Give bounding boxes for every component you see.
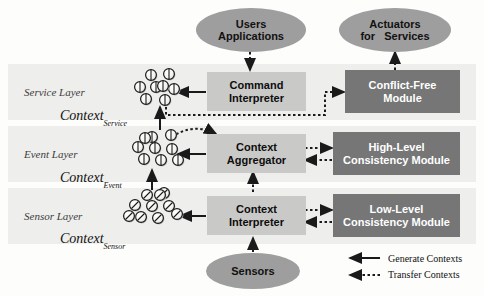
legend: Generate Contexts Transfer Contexts <box>384 251 462 283</box>
service-layer-label: Service Layer <box>24 86 85 98</box>
command-interpreter-box[interactable]: Command Interpreter <box>207 72 306 111</box>
high-level-line-2: Consistency Module <box>343 154 450 167</box>
users-applications-node[interactable]: Users Applications <box>196 8 306 52</box>
users-applications-line-2: Applications <box>218 30 284 42</box>
context-event-base: Context <box>60 170 104 185</box>
context-aggregator-line-1: Context <box>236 141 277 154</box>
users-applications-line-1: Users <box>236 18 267 30</box>
command-interpreter-line-1: Command <box>230 79 284 92</box>
legend-item-transfer-contexts: Transfer Contexts <box>384 267 462 281</box>
context-service-label: ContextService <box>60 108 127 126</box>
legend-transfer-contexts-label: Transfer Contexts <box>388 269 460 280</box>
context-event-label: ContextEvent <box>60 170 122 188</box>
sensor-context-cluster <box>124 188 184 225</box>
event-context-cluster <box>133 130 185 167</box>
context-sensor-label: ContextSensor <box>60 231 125 249</box>
conflict-free-line-1: Conflict-Free <box>369 79 437 92</box>
low-level-consistency-module-box[interactable]: Low-Level Consistency Module <box>333 194 460 237</box>
context-sensor-subscript: Sensor <box>104 242 126 251</box>
context-service-base: Context <box>60 108 104 123</box>
command-interpreter-line-2: Interpreter <box>229 92 284 105</box>
context-sensor-base: Context <box>60 231 104 246</box>
conflict-free-module-box[interactable]: Conflict-Free Module <box>345 70 460 113</box>
conflict-free-line-2: Module <box>383 92 422 105</box>
high-level-line-1: High-Level <box>368 141 424 154</box>
legend-item-generate-contexts: Generate Contexts <box>384 251 462 265</box>
high-level-consistency-module-box[interactable]: High-Level Consistency Module <box>333 132 460 175</box>
architecture-diagram: Users Applications Actuators for Service… <box>0 0 484 296</box>
context-aggregator-box[interactable]: Context Aggregator <box>207 134 306 173</box>
context-service-subscript: Service <box>104 119 128 128</box>
context-aggregator-line-2: Aggregator <box>227 154 286 167</box>
context-interpreter-line-1: Context <box>236 203 277 216</box>
actuators-for-services-node[interactable]: Actuators for Services <box>339 8 451 52</box>
low-level-line-2: Consistency Module <box>343 216 450 229</box>
context-interpreter-line-2: Interpreter <box>229 216 284 229</box>
context-interpreter-box[interactable]: Context Interpreter <box>207 196 306 235</box>
actuators-line-1: Actuators <box>369 18 420 30</box>
event-layer-label: Event Layer <box>24 148 77 160</box>
service-context-cluster <box>135 69 181 107</box>
legend-generate-contexts-label: Generate Contexts <box>388 253 462 264</box>
actuators-line-2: for Services <box>360 30 429 42</box>
sensor-layer-label: Sensor Layer <box>24 210 82 222</box>
context-event-subscript: Event <box>104 181 122 190</box>
low-level-line-1: Low-Level <box>370 203 424 216</box>
sensors-node[interactable]: Sensors <box>206 253 300 289</box>
sensors-label: Sensors <box>231 265 274 277</box>
